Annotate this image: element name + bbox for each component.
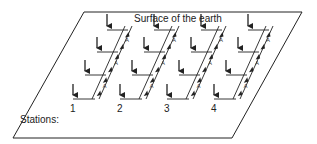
flow-arrowhead-icon <box>162 54 167 60</box>
tube-wall-left <box>233 26 266 99</box>
earth-surface-diagram: Surface of the earth Stations: AAA1AAA2A… <box>0 0 317 144</box>
stations-label: Stations: <box>20 114 59 125</box>
stations-group: AAA1AAA2AAA3AAA4 <box>70 14 273 114</box>
tube-label: A <box>197 83 201 89</box>
tube-label: A <box>255 60 259 66</box>
flow-arrowhead-icon <box>256 54 261 60</box>
surface-title: Surface of the earth <box>134 13 222 24</box>
station-number: 1 <box>70 103 76 114</box>
tube-label: A <box>266 37 270 43</box>
tube-label: A <box>150 83 154 89</box>
tube-label: A <box>244 83 248 89</box>
station-number: 3 <box>164 103 170 114</box>
tube-label: A <box>219 37 223 43</box>
flow-arrowhead-icon <box>209 54 214 60</box>
station-4: AAA4 <box>211 14 273 114</box>
tube-label: A <box>161 60 165 66</box>
tube-label: A <box>172 37 176 43</box>
tube-label: A <box>114 60 118 66</box>
tube-label: A <box>103 83 107 89</box>
station-number: 4 <box>211 103 217 114</box>
flow-arrowhead-icon <box>115 54 120 60</box>
tube-label: A <box>125 37 129 43</box>
tube-label: A <box>208 60 212 66</box>
station-number: 2 <box>117 103 123 114</box>
